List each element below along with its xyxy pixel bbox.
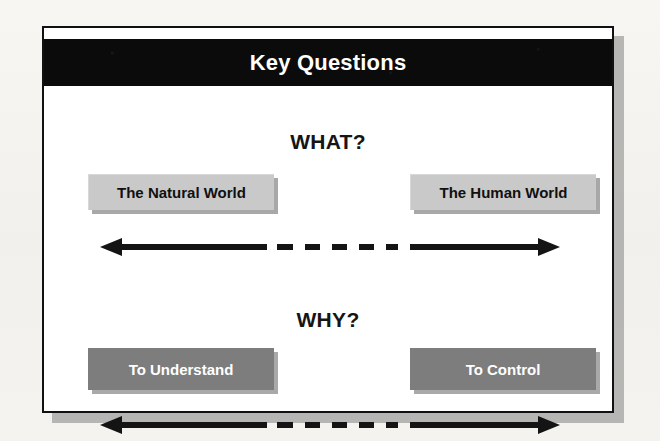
double-headed-dashed-arrow-icon [100, 412, 560, 438]
slide-title-bar: Key Questions [44, 39, 612, 86]
label-box-natural-world[interactable]: The Natural World [88, 174, 274, 210]
slide-inner: Key Questions WHAT? The Natural World Th… [44, 28, 612, 411]
connector-arrow-why [100, 412, 560, 438]
section-heading-what: WHAT? [44, 130, 612, 154]
label-box-natural-world-text: The Natural World [117, 184, 246, 201]
slide-body: WHAT? The Natural World The Human World [44, 86, 612, 411]
label-box-to-understand[interactable]: To Understand [88, 348, 274, 390]
label-box-human-world[interactable]: The Human World [410, 174, 596, 210]
slide-title: Key Questions [250, 50, 407, 76]
double-headed-dashed-arrow-icon [100, 234, 560, 260]
label-box-to-control-text: To Control [466, 361, 541, 378]
label-box-to-control[interactable]: To Control [410, 348, 596, 390]
slide-frame: Key Questions WHAT? The Natural World Th… [42, 26, 614, 413]
connector-arrow-what [100, 234, 560, 260]
section-heading-why: WHY? [44, 308, 612, 332]
label-box-human-world-text: The Human World [439, 184, 567, 201]
label-box-to-understand-text: To Understand [129, 361, 234, 378]
